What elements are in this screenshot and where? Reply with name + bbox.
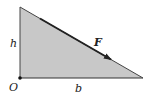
height-label: h bbox=[10, 37, 17, 50]
origin-label: O bbox=[9, 81, 18, 94]
origin-point bbox=[18, 76, 22, 80]
diagram-canvas: h O b F bbox=[0, 0, 152, 97]
base-label: b bbox=[75, 82, 82, 95]
force-label: F bbox=[93, 36, 103, 49]
